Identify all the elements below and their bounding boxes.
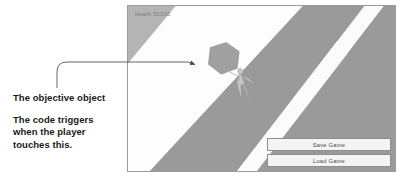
hud-health-label: Health 50/100 (135, 11, 171, 18)
callout-trigger-line-1: The code triggers (13, 114, 125, 126)
save-game-button[interactable]: Save Game (267, 138, 391, 151)
callout-trigger-line-3: touches this. (13, 139, 125, 151)
callout-trigger-text: The code triggers when the player touche… (13, 114, 125, 151)
game-button-group: Save Game Load Game (267, 138, 391, 167)
callout-objective-text: The objective object (13, 92, 125, 104)
load-game-button[interactable]: Load Game (267, 154, 391, 167)
callout-trigger-line-2: when the player (13, 126, 125, 138)
game-screenshot-panel: Health 50/100 Save Game Load Game (127, 5, 396, 172)
annotation-block: The objective object The code triggers w… (13, 92, 125, 151)
